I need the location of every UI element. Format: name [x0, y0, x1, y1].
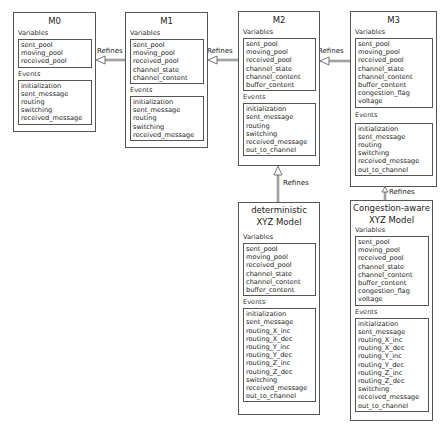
- events-heading: Events: [355, 111, 436, 120]
- list-item: received_pool: [358, 254, 426, 262]
- list-item: moving_pool: [246, 253, 313, 261]
- list-item: received_pool: [246, 261, 313, 269]
- list-item: buffer_content: [246, 286, 313, 294]
- list-item: sent_pool: [358, 40, 430, 48]
- list-item: routing_Z_inc: [246, 359, 313, 367]
- list-item: buffer_content: [358, 279, 426, 287]
- list-item: initialization: [246, 105, 313, 113]
- list-item: channel_state: [246, 65, 313, 73]
- arrow-congestion-to-m3: [382, 187, 388, 200]
- machine-title-line1: deterministic: [239, 205, 319, 216]
- list-item: received_pool: [133, 57, 201, 65]
- variables-list: sent_poolmoving_poolreceived_poolchannel…: [243, 243, 316, 296]
- list-item: routing: [21, 98, 89, 106]
- variables-heading: Variables: [18, 29, 95, 38]
- events-list: initializationsent_messageroutingswitchi…: [355, 123, 433, 176]
- list-item: sent_message: [246, 318, 313, 326]
- refines-label-det-m2: Refines: [283, 179, 309, 187]
- list-item: routing: [246, 122, 313, 130]
- list-item: out_to_channel: [358, 402, 426, 410]
- list-item: buffer_content: [246, 81, 313, 89]
- list-item: voltage: [358, 295, 426, 303]
- list-item: switching: [133, 123, 201, 131]
- list-item: initialization: [246, 310, 313, 318]
- machine-m2: M2 Variables sent_poolmoving_poolreceive…: [238, 11, 320, 166]
- list-item: initialization: [133, 98, 201, 106]
- list-item: sent_message: [21, 90, 89, 98]
- machine-title: M1: [126, 16, 207, 27]
- list-item: switching: [358, 149, 430, 157]
- list-item: out_to_channel: [246, 146, 313, 154]
- list-item: sent_pool: [246, 245, 313, 253]
- list-item: moving_pool: [246, 48, 313, 56]
- list-item: voltage: [358, 97, 430, 105]
- list-item: received_pool: [358, 56, 430, 64]
- list-item: routing_Y_dec: [358, 361, 426, 369]
- machine-m0: M0 Variables sent_poolmoving_poolreceive…: [13, 12, 96, 132]
- list-item: channel_content: [133, 74, 201, 82]
- events-heading: Events: [243, 298, 319, 307]
- list-item: out_to_channel: [358, 166, 430, 174]
- refines-label-cong-m3: Refines: [389, 188, 415, 196]
- list-item: routing: [358, 141, 430, 149]
- events-heading: Events: [18, 70, 95, 79]
- machine-congestion-aware-xyz: Congestion-aware XYZ Model Variables sen…: [350, 200, 433, 421]
- variables-heading: Variables: [355, 28, 436, 37]
- list-item: congestion_flag: [358, 287, 426, 295]
- refines-label-m2-m1: Refines: [207, 47, 233, 55]
- arrow-deterministic-to-m2: [274, 166, 282, 202]
- list-item: channel_state: [358, 65, 430, 73]
- events-heading: Events: [355, 308, 432, 317]
- list-item: received_message: [358, 157, 430, 165]
- variables-list: sent_poolmoving_poolreceived_poolchannel…: [243, 38, 316, 91]
- events-list: initializationsent_messagerouting_X_incr…: [355, 318, 429, 412]
- list-item: out_to_channel: [246, 392, 313, 400]
- list-item: congestion_flag: [358, 89, 430, 97]
- machine-title: M3: [351, 15, 436, 26]
- list-item: moving_pool: [358, 48, 430, 56]
- arrow-m1-to-m0: [96, 56, 125, 64]
- list-item: buffer_content: [358, 81, 430, 89]
- list-item: routing_Z_dec: [358, 377, 426, 385]
- machine-m3: M3 Variables sent_poolmoving_poolreceive…: [350, 11, 437, 187]
- variables-heading: Variables: [243, 233, 319, 242]
- list-item: sent_pool: [358, 238, 426, 246]
- variables-heading: Variables: [355, 226, 432, 235]
- list-item: routing_Y_dec: [246, 351, 313, 359]
- list-item: routing_Z_dec: [246, 368, 313, 376]
- machine-title-line2: XYZ Model: [351, 215, 432, 226]
- variables-heading: Variables: [243, 28, 319, 37]
- events-list: initializationsent_messageroutingswitchi…: [18, 80, 92, 125]
- variables-list: sent_poolmoving_poolreceived_poolchannel…: [355, 236, 429, 306]
- list-item: switching: [246, 130, 313, 138]
- list-item: received_pool: [246, 56, 313, 64]
- list-item: received_message: [246, 384, 313, 392]
- list-item: sent_pool: [246, 40, 313, 48]
- events-list: initializationsent_messageroutingswitchi…: [243, 103, 316, 156]
- list-item: routing_X_dec: [358, 344, 426, 352]
- events-heading: Events: [130, 86, 207, 95]
- variables-heading: Variables: [130, 29, 207, 38]
- events-heading: Events: [243, 93, 319, 102]
- variables-list: sent_poolmoving_poolreceived_poolchannel…: [130, 39, 204, 84]
- list-item: channel_content: [246, 278, 313, 286]
- list-item: routing_Y_inc: [358, 352, 426, 360]
- list-item: switching: [21, 106, 89, 114]
- list-item: initialization: [358, 320, 426, 328]
- list-item: moving_pool: [358, 246, 426, 254]
- machine-deterministic-xyz: deterministic XYZ Model Variables sent_p…: [238, 202, 320, 415]
- list-item: sent_message: [358, 133, 430, 141]
- list-item: routing_X_inc: [246, 327, 313, 335]
- list-item: moving_pool: [21, 49, 89, 57]
- list-item: channel_content: [358, 271, 426, 279]
- variables-list: sent_poolmoving_poolreceived_poolchannel…: [355, 38, 433, 108]
- list-item: routing: [133, 114, 201, 122]
- machine-title-line1: Congestion-aware: [351, 203, 432, 214]
- list-item: routing_X_dec: [246, 335, 313, 343]
- list-item: initialization: [358, 125, 430, 133]
- refines-label-m1-m0: Refines: [97, 47, 123, 55]
- list-item: received_message: [21, 114, 89, 122]
- list-item: routing_Y_inc: [246, 343, 313, 351]
- list-item: initialization: [21, 82, 89, 90]
- list-item: received_message: [246, 138, 313, 146]
